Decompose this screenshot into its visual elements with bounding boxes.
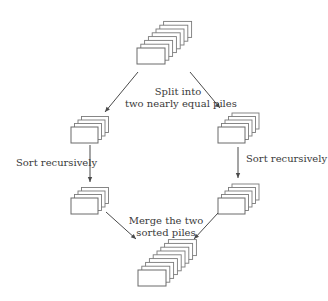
merge-label-line2: sorted piles: [124, 227, 208, 239]
merged-pile: [138, 240, 196, 286]
sort-right-label: Sort recursively: [246, 153, 327, 165]
sort-right-arrow: [236, 147, 240, 178]
left-sorted-pile: [71, 188, 109, 215]
card: [218, 198, 245, 214]
merge-label-line1: Merge the two: [124, 215, 208, 227]
sort-left-label: Sort recursively: [16, 157, 97, 169]
card: [71, 127, 98, 143]
split-label: Split into two nearly equal piles: [125, 86, 231, 110]
card: [138, 270, 166, 286]
card: [137, 48, 165, 64]
right-half-pile: [218, 113, 259, 143]
card-piles: [71, 21, 259, 286]
right-sorted-pile: [218, 184, 259, 214]
merge-label: Merge the two sorted piles: [124, 215, 208, 239]
split-label-line1: Split into: [125, 86, 231, 98]
card: [71, 198, 98, 214]
unsorted-pile: [137, 21, 192, 64]
arrowhead-icon: [236, 173, 240, 178]
merge-sort-diagram: [0, 0, 328, 301]
split-label-line2: two nearly equal piles: [125, 98, 231, 110]
arrowhead-icon: [88, 177, 92, 182]
card: [218, 127, 245, 143]
left-half-pile: [71, 117, 109, 144]
